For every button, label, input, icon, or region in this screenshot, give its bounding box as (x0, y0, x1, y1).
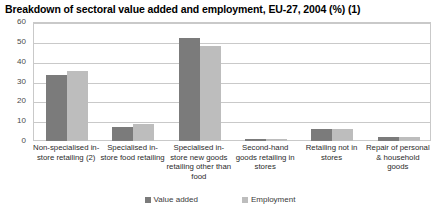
bar-chart: Breakdown of sectoral value added and em… (0, 0, 440, 211)
legend-swatch-icon (145, 197, 151, 203)
y-axis-tick-label: 20 (17, 97, 26, 105)
x-axis-labels: Non-specialised in-store retailing (2)Sp… (33, 143, 431, 189)
legend-item[interactable]: Value added (145, 196, 198, 204)
y-axis-tick-label: 50 (17, 38, 26, 46)
legend-item[interactable]: Employment (242, 196, 295, 204)
x-axis-category-label: Second-hand goods retailing in stores (232, 143, 298, 172)
gridline (34, 43, 430, 44)
y-axis-tick-label: 0 (22, 137, 26, 145)
gridline (34, 102, 430, 103)
y-axis-tick-label: 40 (17, 58, 26, 66)
gridline (34, 83, 430, 84)
x-axis-category-label: Specialised in-store food retailing (99, 143, 165, 162)
chart-legend: Value addedEmployment (0, 193, 440, 207)
x-axis-category-label: Specialised in-store new goods retailing… (166, 143, 232, 181)
gridlines (34, 23, 430, 140)
plot-area (33, 22, 431, 141)
gridline (34, 122, 430, 123)
y-axis-tick-label: 30 (17, 78, 26, 86)
y-axis-tick-label: 10 (17, 117, 26, 125)
x-axis-category-label: Non-specialised in-store retailing (2) (33, 143, 99, 162)
x-axis-category-label: Repair of personal & household goods (365, 143, 431, 172)
y-axis: 6050403020100 (0, 22, 30, 141)
legend-label: Employment (251, 196, 295, 204)
gridline (34, 23, 430, 24)
chart-title: Breakdown of sectoral value added and em… (5, 3, 435, 15)
legend-swatch-icon (242, 197, 248, 203)
gridline (34, 63, 430, 64)
x-axis-category-label: Retailing not in stores (298, 143, 364, 162)
y-axis-tick-label: 60 (17, 18, 26, 26)
legend-label: Value added (154, 196, 198, 204)
